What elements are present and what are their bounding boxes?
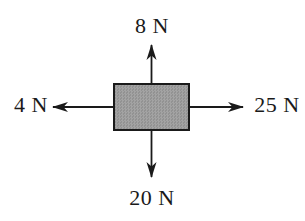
force-label-up: 8 N	[135, 15, 169, 37]
force-label-left: 4 N	[14, 94, 48, 116]
free-body-diagram: 8 N 4 N 25 N 20 N	[0, 0, 305, 221]
block	[113, 83, 190, 131]
force-label-right: 25 N	[254, 94, 299, 116]
force-label-down: 20 N	[129, 187, 174, 209]
